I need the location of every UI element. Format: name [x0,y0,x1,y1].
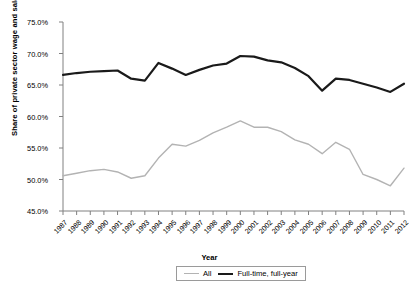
y-axis-tick-label: 75.0% [10,18,48,27]
series-line-all [63,121,404,186]
y-axis-tick-label: 55.0% [10,144,48,153]
legend-swatch-all-icon [184,273,199,274]
legend-swatch-full-time-icon [218,273,233,275]
y-axis-tick-label: 50.0% [10,175,48,184]
y-axis-tick-label: 45.0% [10,207,48,216]
y-axis-tick-label: 60.0% [10,112,48,121]
legend-label-all: All [203,269,211,278]
y-axis-tick-label: 70.0% [10,49,48,58]
chart-legend: All Full-time, full-year [176,266,306,281]
y-axis-tick-label: 65.0% [10,81,48,90]
legend-item-full-time-full-year: Full-time, full-year [218,269,297,278]
x-axis-title: Year [0,253,419,262]
legend-label-full-time-full-year: Full-time, full-year [237,269,297,278]
series-line-full-time-full-year [63,56,404,92]
legend-item-all: All [184,269,211,278]
chart-container: Share of private sector wage and salary … [0,0,419,295]
